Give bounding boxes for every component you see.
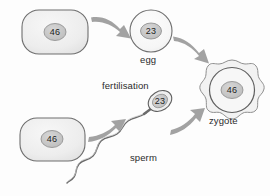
arrow-egg-to-zygote [173, 37, 209, 64]
arrow-mother-to-egg [91, 17, 131, 38]
fertilisation-label: fertilisation [102, 80, 149, 91]
sperm-label: sperm [130, 152, 157, 163]
egg-chromosome-count: 23 [146, 26, 156, 36]
zygote-chromosome-count: 46 [227, 85, 237, 95]
father-parent-cell: 46 [20, 118, 85, 161]
zygote-cell: 46 [200, 60, 264, 119]
egg-label: egg [140, 54, 156, 65]
zygote-label: zygote [209, 115, 238, 126]
mother-cell-chromosome-count: 46 [50, 27, 60, 37]
fertilisation-diagram: 46 23 46 46 [0, 0, 270, 196]
egg-cell: 23 [130, 10, 172, 52]
father-cell-chromosome-count: 46 [47, 134, 57, 144]
diagram-canvas: 46 23 46 46 [0, 0, 270, 196]
arrow-sperm-to-zygote [170, 108, 205, 135]
mother-parent-cell: 46 [22, 10, 88, 54]
sperm-chromosome-count: 23 [155, 96, 165, 106]
